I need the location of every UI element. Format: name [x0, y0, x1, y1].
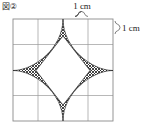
top-brace-curve — [75, 12, 82, 17]
top-dimension-label: 1 cm — [73, 1, 91, 11]
figure-drawing: 1 cm 1 cm — [0, 0, 141, 130]
top-brace-right-half — [82, 12, 89, 17]
right-dimension-label: 1 cm — [122, 23, 140, 33]
dimension-top-width: 1 cm — [73, 1, 91, 17]
dimension-right-height: 1 cm — [115, 21, 140, 34]
figure-container: 図② — [0, 0, 141, 130]
right-brace — [115, 21, 120, 34]
